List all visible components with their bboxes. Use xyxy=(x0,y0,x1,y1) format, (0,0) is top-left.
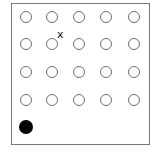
circle-cell[interactable] xyxy=(20,11,32,23)
circle-cell[interactable] xyxy=(20,94,32,106)
circle-cell[interactable] xyxy=(46,11,58,23)
player-dot[interactable] xyxy=(19,120,33,134)
circle-cell[interactable] xyxy=(46,66,58,78)
circle-cell[interactable] xyxy=(100,66,112,78)
x-marker: x xyxy=(57,29,64,40)
circle-cell[interactable] xyxy=(100,11,112,23)
circle-cell[interactable] xyxy=(20,38,32,50)
circle-cell[interactable] xyxy=(100,38,112,50)
circle-cell[interactable] xyxy=(73,66,85,78)
circle-cell[interactable] xyxy=(128,38,140,50)
circle-cell[interactable] xyxy=(46,94,58,106)
circle-cell[interactable] xyxy=(128,11,140,23)
circle-cell[interactable] xyxy=(128,94,140,106)
circle-cell[interactable] xyxy=(73,38,85,50)
circle-cell[interactable] xyxy=(73,11,85,23)
circle-cell[interactable] xyxy=(128,66,140,78)
circle-cell[interactable] xyxy=(73,94,85,106)
circle-cell[interactable] xyxy=(20,66,32,78)
circle-cell[interactable] xyxy=(100,94,112,106)
